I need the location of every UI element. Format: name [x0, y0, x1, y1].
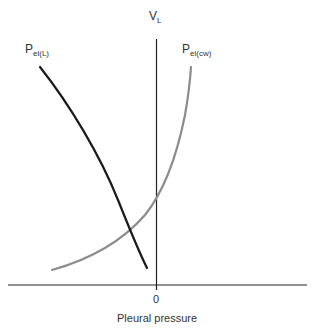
lung-curve: [40, 67, 147, 268]
lung-curve-label-main: P: [25, 42, 33, 56]
chest-wall-curve-label: Pel(cw): [182, 43, 211, 58]
chest-wall-curve-label-main: P: [182, 42, 190, 56]
chest-wall-curve: [52, 67, 191, 270]
y-axis-label-sub: L: [157, 16, 161, 25]
y-axis-label: VL: [149, 10, 161, 25]
lung-curve-label: Pel(L): [25, 43, 49, 58]
zero-tick-label: 0: [153, 294, 159, 305]
chest-wall-curve-label-sub: el(cw): [190, 49, 211, 58]
y-axis-label-main: V: [149, 9, 157, 23]
x-axis-label: Pleural pressure: [117, 313, 197, 324]
lung-curve-label-sub: el(L): [33, 49, 49, 58]
